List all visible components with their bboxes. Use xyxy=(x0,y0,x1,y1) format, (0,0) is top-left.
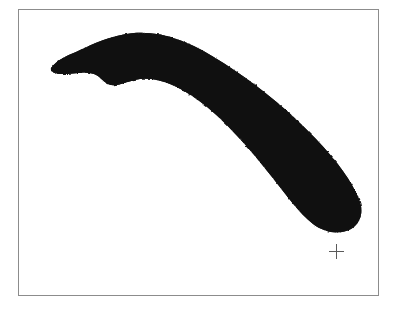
registration-crosshair-icon xyxy=(329,244,344,259)
banana-silhouette xyxy=(0,0,397,311)
banana-grain-texture xyxy=(40,25,375,245)
crosshair-vertical-bar xyxy=(336,244,337,259)
banana-body xyxy=(40,25,375,245)
figure-canvas: Black silhouette of a banana xyxy=(0,0,397,311)
